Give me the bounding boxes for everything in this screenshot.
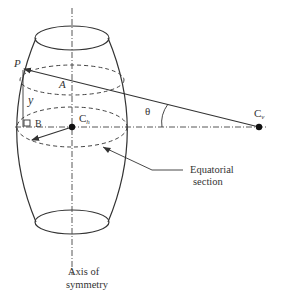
label-y: y	[27, 93, 34, 107]
label-equatorial-line2: section	[193, 176, 223, 187]
right-angle-marker	[24, 120, 30, 126]
label-theta: θ	[145, 105, 150, 117]
equatorial-leader-line	[103, 147, 183, 170]
label-a: A	[58, 78, 66, 90]
label-cv: Cv	[254, 107, 265, 121]
theta-angle-arc	[162, 104, 168, 127]
label-equatorial-line1: Equatorial	[190, 164, 234, 175]
center-h-dot	[69, 124, 75, 130]
label-axis-line2: symmetry	[66, 279, 109, 290]
barrel-diagram: P A y B Ch Cv θ Equatorial section Axis …	[0, 0, 281, 300]
center-v-dot	[256, 124, 262, 130]
label-axis-line1: Axis of	[68, 266, 100, 277]
label-p: P	[13, 57, 21, 69]
label-b: B	[35, 118, 42, 129]
label-ch: Ch	[79, 112, 90, 126]
barrel-right-side	[108, 38, 128, 222]
